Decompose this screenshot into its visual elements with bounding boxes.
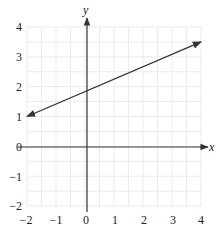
y-tick: 1: [16, 110, 22, 124]
grid: [27, 27, 201, 206]
x-tick: 2: [141, 213, 147, 227]
y-tick: 2: [16, 80, 22, 94]
coordinate-plane: x y −2 −1 0 1 2 3 4 4 3 2 1 0 −1 −2: [0, 0, 220, 239]
y-tick: 0: [16, 140, 22, 154]
y-axis-label: y: [82, 3, 89, 17]
x-axis-label: x: [208, 140, 215, 154]
x-tick-labels: −2 −1 0 1 2 3 4: [20, 213, 204, 227]
y-tick: −2: [9, 199, 22, 213]
x-tick: 0: [83, 213, 89, 227]
y-tick: 4: [16, 20, 22, 34]
x-tick: 4: [198, 213, 204, 227]
y-tick: −1: [9, 170, 22, 184]
x-tick: −1: [50, 213, 63, 227]
x-tick: 3: [170, 213, 176, 227]
x-tick: −2: [20, 213, 33, 227]
y-tick-labels: 4 3 2 1 0 −1 −2: [9, 20, 22, 213]
x-tick: 1: [112, 213, 118, 227]
y-tick: 3: [16, 50, 22, 64]
